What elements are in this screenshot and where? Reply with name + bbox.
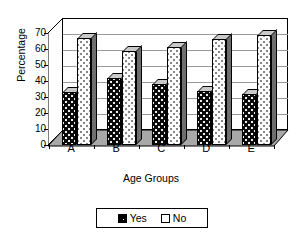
- x-tick-mark: [229, 145, 230, 149]
- filled-dark-swatch: [118, 214, 127, 223]
- y-tick-label: 10: [24, 124, 46, 134]
- chart-legend: YesNo: [96, 208, 208, 228]
- legend-item-yes: Yes: [118, 213, 147, 224]
- y-tick-mark: [44, 113, 48, 114]
- bar-front-face: [152, 84, 166, 145]
- bar-front-face: [197, 91, 211, 145]
- y-tick-mark: [44, 65, 48, 66]
- bar-front-face: [122, 51, 136, 145]
- y-tick-label: 30: [24, 92, 46, 102]
- x-tick-mark: [274, 145, 275, 149]
- bar-front-face: [62, 92, 76, 145]
- y-tick-label: 70: [24, 28, 46, 38]
- y-axis-tick-labels: 010203040506070: [22, 0, 46, 160]
- y-tick-mark: [44, 33, 48, 34]
- bar-front-face: [77, 38, 91, 145]
- bar-front-face: [242, 94, 256, 145]
- y-tick-label: 60: [24, 44, 46, 54]
- bar-e-no: [257, 35, 271, 145]
- empty-light-swatch: [161, 214, 170, 223]
- bar-side-face: [91, 32, 97, 145]
- y-tick-label: 40: [24, 76, 46, 86]
- y-tick-label: 50: [24, 60, 46, 70]
- y-tick-mark: [44, 97, 48, 98]
- bar-d-no: [212, 39, 226, 145]
- x-tick-mark: [49, 145, 50, 149]
- bar-b-yes: [107, 78, 121, 145]
- x-tick-mark: [184, 145, 185, 149]
- y-tick-mark: [44, 81, 48, 82]
- x-tick-mark: [94, 145, 95, 149]
- bar-a-yes: [62, 92, 76, 145]
- bar-side-face: [136, 45, 142, 145]
- bar-d-yes: [197, 91, 211, 145]
- bar-b-no: [122, 51, 136, 145]
- plot-area: [48, 18, 288, 138]
- bar-chart: Percentage 010203040506070 ABCDE Age Gro…: [0, 0, 302, 240]
- y-tick-mark: [44, 49, 48, 50]
- bar-front-face: [167, 47, 181, 145]
- x-axis-title: Age Groups: [0, 172, 302, 184]
- bar-side-face: [271, 29, 277, 145]
- bar-front-face: [212, 39, 226, 145]
- bar-side-face: [226, 33, 232, 145]
- bar-e-yes: [242, 94, 256, 145]
- bar-front-face: [257, 35, 271, 145]
- bar-a-no: [77, 38, 91, 145]
- legend-item-no: No: [161, 213, 186, 224]
- y-tick-label: 20: [24, 108, 46, 118]
- bar-c-yes: [152, 84, 166, 145]
- y-tick-label: 0: [24, 140, 46, 150]
- bar-c-no: [167, 47, 181, 145]
- bar-side-face: [181, 41, 187, 145]
- legend-label: No: [173, 213, 186, 224]
- bar-front-face: [107, 78, 121, 145]
- x-tick-mark: [139, 145, 140, 149]
- legend-label: Yes: [130, 213, 147, 224]
